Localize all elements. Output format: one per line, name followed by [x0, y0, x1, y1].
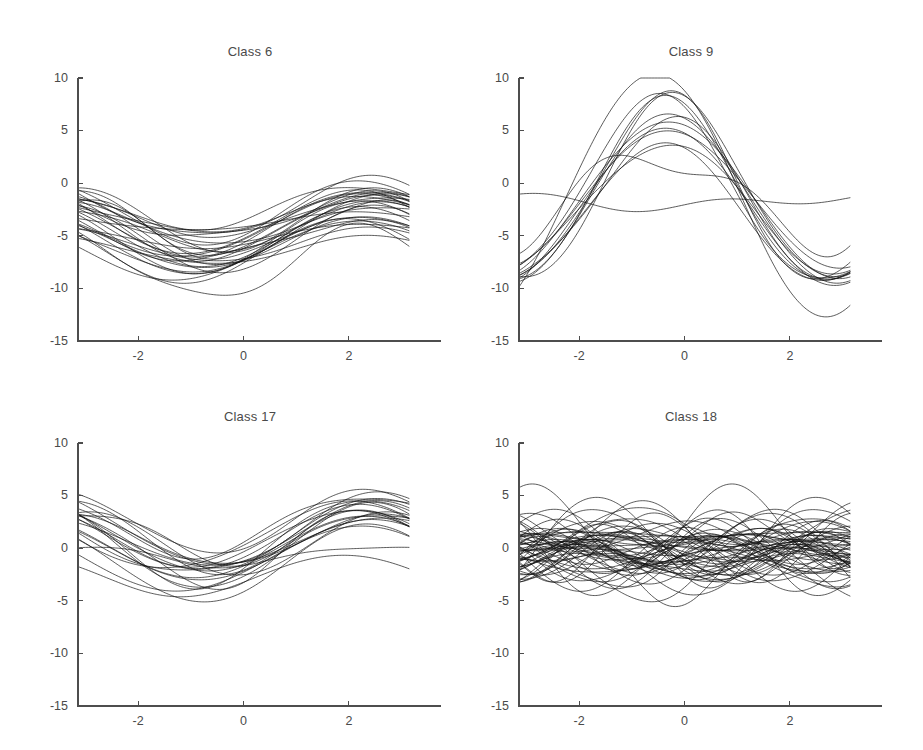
panel-class-18: Class 18 1050-5-10-15-202	[471, 405, 911, 750]
y-tick-label: -5	[57, 229, 68, 243]
y-tick-label: 5	[502, 123, 509, 137]
data-curve	[78, 499, 409, 559]
y-tick-label: -5	[498, 594, 509, 608]
y-tick-label: 0	[61, 541, 68, 555]
data-curve	[78, 501, 409, 575]
y-tick-label: -15	[491, 334, 509, 348]
data-curve	[519, 122, 850, 279]
y-tick-label: 5	[61, 488, 68, 502]
y-tick-label: 10	[54, 71, 68, 85]
x-tick-label: 0	[240, 349, 247, 363]
data-curve	[78, 201, 409, 267]
plot-area: 1050-5-10-15-202	[30, 405, 470, 750]
data-curve	[519, 128, 850, 285]
data-curve	[519, 193, 850, 211]
data-curve	[519, 92, 850, 276]
panel-class-9: Class 9 1050-5-10-15-202	[471, 40, 911, 410]
x-tick-label: 0	[681, 349, 688, 363]
data-curve	[519, 155, 850, 257]
y-tick-label: 10	[54, 436, 68, 450]
x-tick-label: -2	[574, 349, 585, 363]
x-tick-label: 2	[786, 714, 793, 728]
y-tick-label: -10	[491, 646, 509, 660]
data-curve	[519, 114, 850, 283]
curve-bundle	[78, 489, 409, 602]
y-tick-label: 10	[495, 71, 509, 85]
x-tick-label: 0	[240, 714, 247, 728]
y-tick-label: 5	[502, 488, 509, 502]
data-curve	[78, 511, 409, 568]
data-curve	[78, 518, 409, 565]
x-tick-label: 0	[681, 714, 688, 728]
data-curve	[78, 526, 409, 591]
x-tick-label: -2	[574, 714, 585, 728]
x-tick-label: 2	[345, 714, 352, 728]
data-curve	[78, 194, 409, 265]
data-curve	[519, 143, 850, 281]
y-tick-label: -10	[491, 281, 509, 295]
data-curve	[78, 520, 409, 580]
y-tick-label: 0	[61, 176, 68, 190]
x-tick-label: -2	[133, 714, 144, 728]
panel-class-6: Class 6 1050-5-10-15-202	[30, 40, 470, 410]
data-curve	[78, 524, 409, 602]
data-curve	[519, 131, 850, 268]
y-tick-label: -15	[50, 334, 68, 348]
figure-canvas: Class 6 1050-5-10-15-202 Class 9 1050-5-…	[0, 0, 923, 750]
y-tick-label: 0	[502, 176, 509, 190]
x-tick-label: -2	[133, 349, 144, 363]
plot-area: 1050-5-10-15-202	[471, 40, 911, 410]
y-tick-label: 10	[495, 436, 509, 450]
data-curve	[78, 510, 409, 589]
x-tick-label: 2	[345, 349, 352, 363]
axis-spines	[519, 443, 882, 706]
curve-bundle	[78, 175, 409, 295]
axis-spines	[78, 78, 441, 341]
curve-bundle	[519, 78, 850, 317]
y-tick-label: 0	[502, 541, 509, 555]
y-tick-label: -15	[50, 699, 68, 713]
plot-area: 1050-5-10-15-202	[30, 40, 470, 410]
y-tick-label: -5	[498, 229, 509, 243]
data-curve	[78, 504, 409, 568]
plot-area: 1050-5-10-15-202	[471, 405, 911, 750]
y-tick-label: -10	[50, 646, 68, 660]
panel-class-17: Class 17 1050-5-10-15-202	[30, 405, 470, 750]
y-tick-label: -10	[50, 281, 68, 295]
x-tick-label: 2	[786, 349, 793, 363]
y-tick-label: -5	[57, 594, 68, 608]
y-tick-label: -15	[491, 699, 509, 713]
data-curve	[519, 95, 850, 280]
curve-bundle	[519, 484, 850, 607]
y-tick-label: 5	[61, 123, 68, 137]
data-curve	[519, 78, 850, 317]
